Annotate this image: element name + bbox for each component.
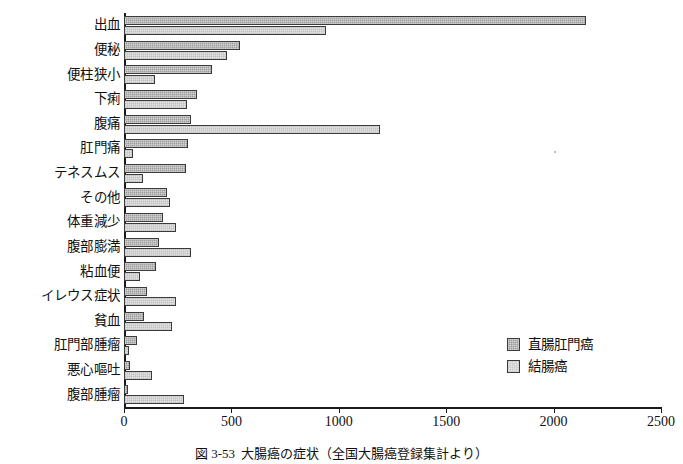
legend-swatch-icon <box>507 360 520 373</box>
category-label: 腹部腫瘤 <box>0 388 120 402</box>
bar-rectal-anal-cancer <box>124 90 197 99</box>
legend-label: 結腸癌 <box>528 359 567 374</box>
scan-artifact <box>554 151 556 153</box>
bar-group <box>124 236 661 261</box>
bar-rectal-anal-cancer <box>124 188 167 197</box>
bar-rectal-anal-cancer <box>124 65 212 74</box>
bar-colon-cancer <box>124 248 191 257</box>
bar-colon-cancer <box>124 125 380 134</box>
figure-container: 出血便秘便柱狭小下痢腹痛肛門痛テネスムスその他体重減少腹部膨満粘血便イレウス症状… <box>0 0 683 464</box>
x-axis-tick <box>661 407 662 413</box>
category-label: 悪心嘔吐 <box>0 363 120 377</box>
bar-rectal-anal-cancer <box>124 41 240 50</box>
category-label: その他 <box>0 191 120 205</box>
bar-group <box>124 310 661 335</box>
bar-rectal-anal-cancer <box>124 16 586 25</box>
bar-colon-cancer <box>124 198 170 207</box>
bar-group <box>124 260 661 285</box>
bar-rectal-anal-cancer <box>124 213 163 222</box>
bar-colon-cancer <box>124 322 172 331</box>
x-axis-tick <box>446 407 447 413</box>
bar-group <box>124 186 661 211</box>
x-axis-tick <box>231 407 232 413</box>
figure-caption: 図 3-53大腸癌の症状（全国大腸癌登録集計より） <box>0 446 683 462</box>
x-axis-tick-label: 1500 <box>432 414 460 430</box>
bar-rectal-anal-cancer <box>124 361 130 370</box>
bar-colon-cancer <box>124 149 133 158</box>
bar-group <box>124 211 661 236</box>
bar-rectal-anal-cancer <box>124 312 144 321</box>
x-axis-tick-label: 0 <box>121 414 128 430</box>
bar-colon-cancer <box>124 371 152 380</box>
category-label: 便秘 <box>0 43 120 57</box>
bar-rectal-anal-cancer <box>124 139 188 148</box>
category-axis-labels: 出血便秘便柱狭小下痢腹痛肛門痛テネスムスその他体重減少腹部膨満粘血便イレウス症状… <box>0 14 120 408</box>
category-label: 肛門部腫瘤 <box>0 338 120 352</box>
bar-group <box>124 63 661 88</box>
bar-colon-cancer <box>124 51 227 60</box>
figure-caption-text: 大腸癌の症状（全国大腸癌登録集計より） <box>241 446 488 461</box>
category-label: イレウス症状 <box>0 289 120 303</box>
x-axis-tick-label: 2500 <box>647 414 675 430</box>
bar-colon-cancer <box>124 26 326 35</box>
category-label: 腹痛 <box>0 117 120 131</box>
bar-group <box>124 137 661 162</box>
bar-rectal-anal-cancer <box>124 115 191 124</box>
bar-group <box>124 88 661 113</box>
bar-rectal-anal-cancer <box>124 262 156 271</box>
bar-colon-cancer <box>124 174 143 183</box>
bar-group <box>124 383 661 408</box>
chart-legend: 直腸肛門癌結腸癌 <box>507 333 637 377</box>
bar-group <box>124 162 661 187</box>
bar-rectal-anal-cancer <box>124 385 128 394</box>
x-axis-tick-label: 1000 <box>325 414 353 430</box>
bar-colon-cancer <box>124 395 184 404</box>
x-axis-tick <box>339 407 340 413</box>
bar-colon-cancer <box>124 223 176 232</box>
bar-group <box>124 285 661 310</box>
legend-swatch-icon <box>507 338 520 351</box>
x-axis-tick <box>554 407 555 413</box>
x-axis-tick-label: 2000 <box>540 414 568 430</box>
x-axis-tick <box>124 407 125 413</box>
bar-colon-cancer <box>124 297 176 306</box>
category-label: 粘血便 <box>0 265 120 279</box>
bar-group <box>124 14 661 39</box>
category-label: 下痢 <box>0 92 120 106</box>
bar-colon-cancer <box>124 75 155 84</box>
legend-item: 結腸癌 <box>507 355 637 377</box>
legend-label: 直腸肛門癌 <box>528 337 593 352</box>
bar-colon-cancer <box>124 100 187 109</box>
bar-rectal-anal-cancer <box>124 238 159 247</box>
figure-number: 図 3-53 <box>195 446 235 461</box>
bar-colon-cancer <box>124 272 140 281</box>
category-label: 腹部膨満 <box>0 240 120 254</box>
category-label: 貧血 <box>0 314 120 328</box>
bar-rectal-anal-cancer <box>124 287 147 296</box>
category-label: 体重減少 <box>0 215 120 229</box>
category-label: 便柱狭小 <box>0 68 120 82</box>
x-axis-tick-label: 500 <box>221 414 242 430</box>
category-label: 出血 <box>0 18 120 32</box>
legend-item: 直腸肛門癌 <box>507 333 637 355</box>
category-label: 肛門痛 <box>0 141 120 155</box>
bar-group <box>124 39 661 64</box>
bar-group <box>124 113 661 138</box>
category-label: テネスムス <box>0 166 120 180</box>
bar-rectal-anal-cancer <box>124 164 186 173</box>
bar-rectal-anal-cancer <box>124 336 137 345</box>
bar-colon-cancer <box>124 346 129 355</box>
